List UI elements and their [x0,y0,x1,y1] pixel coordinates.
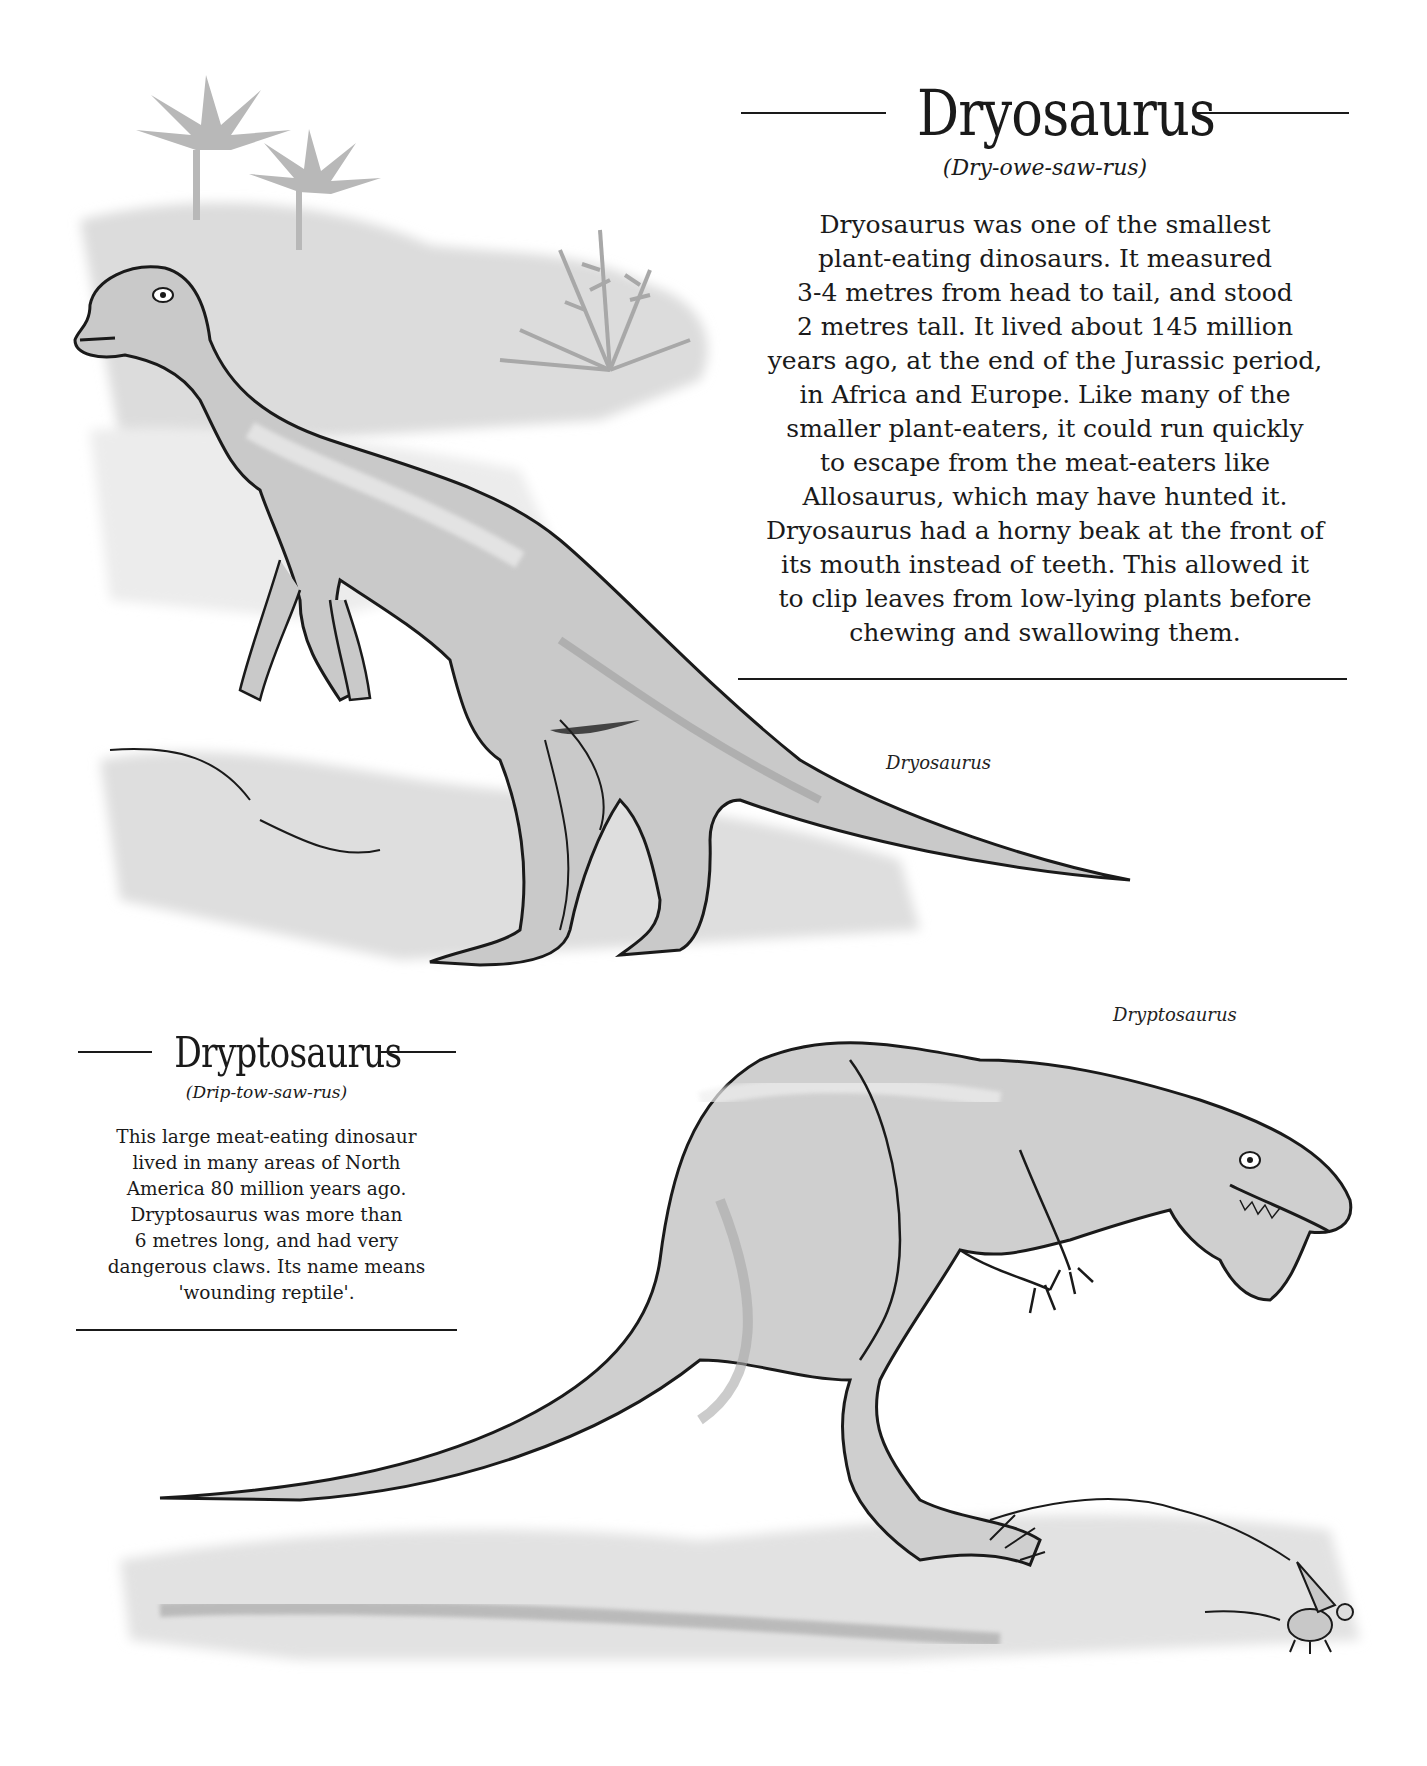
description-line: chewing and swallowing them. [740,616,1350,650]
description-line: This large meat-eating dinosaur [70,1124,463,1150]
description-line: 'wounding reptile'. [70,1280,463,1306]
dryosaurus-caption: Dryosaurus [886,752,991,773]
dryosaurus-heading: Dryosaurus [741,78,1349,148]
description-line: in Africa and Europe. Like many of the [740,378,1350,412]
dryptosaurus-heading: Dryptosaurus [76,1028,457,1076]
description-line: years ago, at the end of the Jurassic pe… [740,344,1350,378]
dryptosaurus-pronunciation: (Drip-tow-saw-rus) [76,1082,457,1102]
dryptosaurus-bottom-rule [76,1329,457,1331]
dryosaurus-bottom-rule [738,678,1347,680]
description-line: 6 metres long, and had very [70,1228,463,1254]
description-line: Dryosaurus had a horny beak at the front… [740,514,1350,548]
dryptosaurus-title: Dryptosaurus [174,1028,359,1077]
description-line: to clip leaves from low-lying plants bef… [740,582,1350,616]
dryosaurus-description: Dryosaurus was one of the smallest plant… [740,208,1350,650]
heading-rule-left [741,112,886,114]
description-line: 3-4 metres from head to tail, and stood [740,276,1350,310]
description-line: smaller plant-eaters, it could run quick… [740,412,1350,446]
dryptosaurus-caption: Dryptosaurus [1113,1004,1237,1025]
heading-rule-left [78,1051,152,1053]
description-line: Dryptosaurus was more than [70,1202,463,1228]
dryptosaurus-description: This large meat-eating dinosaur lived in… [70,1124,463,1306]
description-line: dangerous claws. Its name means [70,1254,463,1280]
description-line: Dryosaurus was one of the smallest [740,208,1350,242]
heading-rule-right [1194,112,1349,114]
dryosaurus-pronunciation: (Dry-owe-saw-rus) [741,155,1349,180]
description-line: 2 metres tall. It lived about 145 millio… [740,310,1350,344]
dryosaurus-title: Dryosaurus [917,76,1163,150]
description-line: its mouth instead of teeth. This allowed… [740,548,1350,582]
description-line: to escape from the meat-eaters like [740,446,1350,480]
description-line: plant-eating dinosaurs. It measured [740,242,1350,276]
description-line: Allosaurus, which may have hunted it. [740,480,1350,514]
description-line: lived in many areas of North [70,1150,463,1176]
description-line: America 80 million years ago. [70,1176,463,1202]
